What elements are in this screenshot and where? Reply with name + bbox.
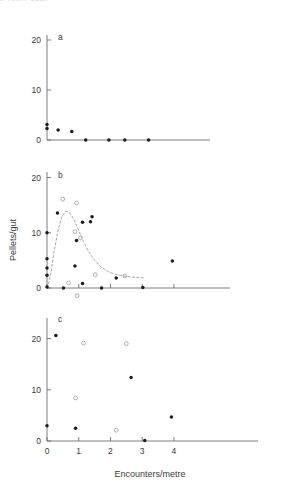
filled-circle-marker xyxy=(84,138,88,142)
panel-a-y-tick-labels: 01020 xyxy=(32,35,42,145)
filled-circle-marker xyxy=(45,274,49,278)
filled-circle-marker xyxy=(171,259,175,263)
panel-a: 01020 a xyxy=(32,32,210,145)
three-panel-scatter-figure: Pellets/gut 01020 a 01020 b xyxy=(0,0,302,492)
filled-circle-marker xyxy=(74,426,78,430)
filled-circle-marker xyxy=(45,285,49,289)
filled-circle-marker xyxy=(56,128,60,132)
y-tick-label-10: 10 xyxy=(32,85,42,95)
y-tick-label-0: 0 xyxy=(36,283,41,293)
filled-circle-marker xyxy=(45,257,49,261)
panel-c-axis-lines xyxy=(47,318,258,441)
cropped-header-text: J. Anim. Ecol. xyxy=(0,0,302,6)
open-circle-marker xyxy=(73,230,77,234)
filled-circle-marker xyxy=(54,334,58,338)
panel-b-data-points xyxy=(45,197,174,297)
y-tick-label-20: 20 xyxy=(32,35,42,45)
panel-c-data-points xyxy=(45,334,173,443)
open-circle-marker xyxy=(124,342,128,346)
filled-circle-marker xyxy=(75,239,79,243)
filled-circle-marker xyxy=(81,282,85,286)
y-tick-label-10: 10 xyxy=(32,385,42,395)
filled-circle-marker xyxy=(107,138,111,142)
figure-container: J. Anim. Ecol. Pellets/gut 01020 a 01020… xyxy=(0,0,302,492)
panel-b-ticks xyxy=(47,178,174,288)
open-circle-marker xyxy=(75,201,79,205)
panel-a-label: a xyxy=(58,32,63,42)
filled-circle-marker xyxy=(100,286,104,290)
panel-c-y-tick-labels: 01020 xyxy=(32,334,42,447)
y-axis-title: Pellets/gut xyxy=(8,218,18,261)
y-tick-label-0: 0 xyxy=(36,436,41,446)
filled-circle-marker xyxy=(141,286,145,290)
panel-a-data-points xyxy=(45,123,150,142)
filled-circle-marker xyxy=(45,127,49,131)
panel-a-axes xyxy=(47,35,210,140)
open-circle-marker xyxy=(67,281,71,285)
panel-c: 01020 01234 c Encounters/metre xyxy=(32,314,258,479)
filled-circle-marker xyxy=(89,220,93,224)
open-circle-marker xyxy=(93,273,97,277)
panel-b-label: b xyxy=(58,170,63,180)
y-tick-label-20: 20 xyxy=(32,173,42,183)
filled-circle-marker xyxy=(45,266,49,270)
open-circle-marker xyxy=(114,428,118,432)
open-circle-marker xyxy=(75,294,79,298)
filled-circle-marker xyxy=(45,424,49,428)
cropped-header-label: J. Anim. Ecol. xyxy=(0,0,48,2)
filled-circle-marker xyxy=(70,130,74,134)
filled-circle-marker xyxy=(62,286,66,290)
x-tick-label-1: 1 xyxy=(76,446,81,456)
filled-circle-marker xyxy=(114,276,118,280)
panel-b: 01020 b xyxy=(32,170,230,298)
x-tick-label-3: 3 xyxy=(140,446,145,456)
filled-circle-marker xyxy=(129,376,133,380)
filled-circle-marker xyxy=(123,138,127,142)
filled-circle-marker xyxy=(45,231,49,235)
y-tick-label-20: 20 xyxy=(32,334,42,344)
open-circle-marker xyxy=(74,396,78,400)
filled-circle-marker xyxy=(45,123,49,127)
filled-circle-marker xyxy=(81,221,85,225)
filled-circle-marker xyxy=(143,439,147,443)
panel-c-ticks xyxy=(47,339,174,442)
x-tick-label-4: 4 xyxy=(172,446,177,456)
filled-circle-marker xyxy=(73,264,77,268)
panel-a-axis-lines xyxy=(47,35,210,140)
x-tick-label-0: 0 xyxy=(45,446,50,456)
x-tick-label-2: 2 xyxy=(108,446,113,456)
filled-circle-marker xyxy=(56,211,60,215)
filled-circle-marker xyxy=(90,215,94,219)
panel-c-x-tick-labels: 01234 xyxy=(45,446,177,456)
panel-b-y-tick-labels: 01020 xyxy=(32,173,42,293)
filled-circle-marker xyxy=(147,138,151,142)
panel-c-axes xyxy=(47,318,258,441)
x-axis-title: Encounters/metre xyxy=(114,469,185,479)
open-circle-marker xyxy=(61,197,65,201)
open-circle-marker xyxy=(82,341,86,345)
panel-c-label: c xyxy=(58,314,63,324)
filled-circle-marker xyxy=(170,415,174,419)
y-tick-label-0: 0 xyxy=(36,135,41,145)
y-tick-label-10: 10 xyxy=(32,228,42,238)
